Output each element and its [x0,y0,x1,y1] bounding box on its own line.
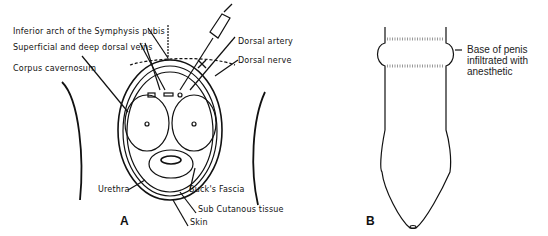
penis-outline [378,27,454,228]
label-skin: Skin [190,218,208,227]
label-line-3: anesthetic [467,66,528,77]
label-base-of-penis: Base of penis infiltrated with anestheti… [467,44,528,77]
label-bucks-fascia: Buck's Fascia [189,185,245,194]
panel-letter-b: B [366,214,375,228]
label-dorsal-artery: Dorsal artery [238,37,293,46]
label-subcutaneous-tissue: Sub Cutanous tissue [198,205,284,214]
skin-ring [118,60,222,200]
label-line-2: infiltrated with [467,55,528,66]
label-dorsal-nerve: Dorsal nerve [238,56,292,65]
urethra [161,156,181,164]
label-corpus-cavernosum: Corpus cavernosum [13,64,96,73]
label-line-1: Base of penis [467,44,528,55]
label-urethra: Urethra [98,185,130,194]
left-thigh-outline [62,82,81,200]
right-thigh-outline [253,92,265,205]
panel-letter-a: A [120,214,129,228]
label-dorsal-veins: Superficial and deep dorsal veins [13,43,153,52]
corpus-cavernosum-left [125,95,169,151]
corpus-cavernosum-right [172,95,216,151]
label-symphysis: Inferior arch of the Symphysis pubis [13,27,165,36]
